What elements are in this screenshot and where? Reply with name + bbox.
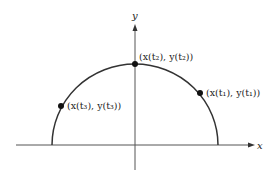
y-axis-label: y (131, 10, 138, 21)
point-t3: (x(t₃), y(t₃)) (58, 100, 121, 111)
y-axis-arrow-icon (133, 24, 138, 31)
x-axis-arrow-icon (248, 143, 255, 148)
parametric-semicircle-diagram: x y (x(t₂), y(t₂)) (x(t₁), y(t₁)) (x(t₃)… (0, 0, 274, 174)
point-t1: (x(t₁), y(t₁)) (197, 87, 260, 98)
point-t2-label: (x(t₂), y(t₂)) (139, 51, 193, 62)
x-axis: x (16, 140, 263, 151)
point-t3-label: (x(t₃), y(t₃)) (67, 100, 121, 111)
y-axis: y (131, 10, 138, 170)
x-axis-label: x (257, 140, 263, 151)
point-t3-dot (58, 103, 64, 109)
point-t1-label: (x(t₁), y(t₁)) (206, 87, 260, 98)
point-t2-dot (132, 61, 138, 67)
point-t1-dot (197, 90, 203, 96)
